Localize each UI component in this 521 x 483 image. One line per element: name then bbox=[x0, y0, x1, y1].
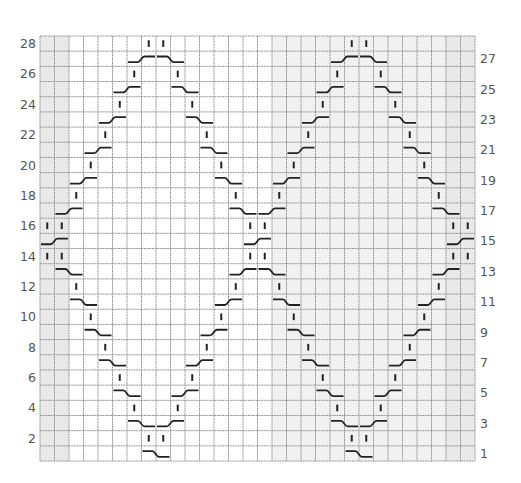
row-label-right: 25 bbox=[480, 82, 496, 97]
row-label-right: 19 bbox=[480, 173, 496, 188]
row-label-left: 28 bbox=[20, 36, 36, 51]
shaded-column bbox=[345, 36, 360, 461]
row-label-right: 27 bbox=[480, 51, 496, 66]
cable-chart: 2468101214161820222426281357911131517192… bbox=[0, 0, 521, 483]
row-label-left: 22 bbox=[20, 127, 36, 142]
row-label-right: 21 bbox=[480, 142, 496, 157]
row-label-left: 10 bbox=[20, 309, 36, 324]
row-label-right: 13 bbox=[480, 264, 496, 279]
row-label-right: 3 bbox=[480, 416, 488, 431]
cable-cross-right-icon bbox=[215, 178, 242, 184]
row-label-right: 5 bbox=[480, 385, 488, 400]
row-label-left: 8 bbox=[28, 340, 36, 355]
row-label-left: 18 bbox=[20, 188, 36, 203]
cable-cross-left-icon bbox=[244, 239, 271, 245]
cable-chart-grid: 2468101214161820222426281357911131517192… bbox=[0, 0, 521, 483]
cable-cross-right-icon bbox=[172, 87, 199, 93]
row-label-right: 23 bbox=[480, 112, 496, 127]
cable-cross-right-icon bbox=[99, 360, 126, 366]
row-label-right: 1 bbox=[480, 446, 488, 461]
row-label-right: 9 bbox=[480, 325, 488, 340]
row-label-left: 14 bbox=[20, 249, 36, 264]
row-label-left: 20 bbox=[20, 158, 36, 173]
row-label-left: 2 bbox=[28, 431, 36, 446]
cable-cross-left-icon bbox=[201, 330, 228, 336]
cable-cross-left-icon bbox=[157, 421, 184, 427]
row-label-left: 4 bbox=[28, 400, 36, 415]
row-label-left: 16 bbox=[20, 218, 36, 233]
row-label-right: 11 bbox=[480, 294, 496, 309]
row-label-left: 12 bbox=[20, 279, 36, 294]
row-label-left: 26 bbox=[20, 66, 36, 81]
row-label-right: 7 bbox=[480, 355, 488, 370]
row-label-left: 6 bbox=[28, 370, 36, 385]
row-label-right: 15 bbox=[480, 233, 496, 248]
row-label-right: 17 bbox=[480, 203, 496, 218]
row-label-left: 24 bbox=[20, 97, 36, 112]
shaded-column bbox=[446, 36, 461, 461]
